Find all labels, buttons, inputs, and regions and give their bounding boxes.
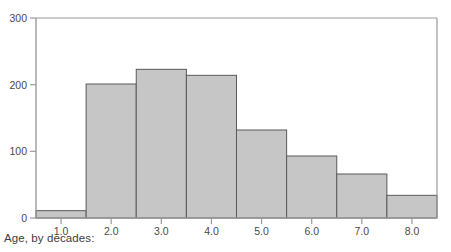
bar-8[interactable]	[387, 195, 437, 218]
y-tick-labels-group: 300 200 100 0	[9, 12, 27, 224]
x-tick-label-4: 4.0	[204, 225, 219, 237]
x-tick-labels-group: 1.0 2.0 3.0 4.0 5.0 6.0 7.0 8.0	[54, 225, 420, 237]
x-axis-caption: Age, by decades:	[4, 232, 94, 244]
bar-5[interactable]	[237, 130, 287, 218]
x-tick-label-5: 5.0	[254, 225, 269, 237]
y-tick-label-200: 200	[9, 79, 27, 91]
x-tick-label-6: 6.0	[304, 225, 319, 237]
x-tick-label-8: 8.0	[405, 225, 420, 237]
histogram-figure: 300 200 100 0 1.0 2.0 3.0 4.0 5.0 6.0 7.…	[0, 0, 451, 252]
bar-1[interactable]	[36, 211, 86, 218]
y-tick-label-0: 0	[21, 212, 27, 224]
x-tick-label-7: 7.0	[355, 225, 370, 237]
bar-3[interactable]	[136, 69, 186, 218]
bar-4[interactable]	[186, 75, 236, 218]
bar-7[interactable]	[337, 174, 387, 218]
bar-6[interactable]	[287, 156, 337, 218]
x-tick-label-3: 3.0	[154, 225, 169, 237]
y-tick-label-100: 100	[9, 145, 27, 157]
bar-2[interactable]	[86, 84, 136, 218]
histogram-plot: 300 200 100 0 1.0 2.0 3.0 4.0 5.0 6.0 7.…	[0, 0, 451, 252]
y-ticks-group	[30, 18, 36, 218]
x-tick-label-2: 2.0	[104, 225, 119, 237]
y-tick-label-300: 300	[9, 12, 27, 24]
x-ticks-group	[61, 218, 412, 224]
